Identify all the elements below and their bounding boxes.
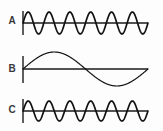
waveform-row-c: C [0,90,163,131]
waveform-plot-c [0,90,163,131]
waveform-plot-b [0,46,163,92]
waveform-row-a: A [0,0,163,46]
waveform-figure: A B C [0,0,163,131]
waveform-plot-a [0,0,163,46]
waveform-row-b: B [0,46,163,92]
